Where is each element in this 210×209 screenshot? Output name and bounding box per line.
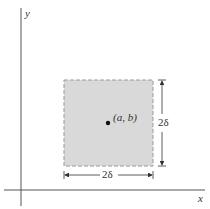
height-dimension-label: 2δ	[156, 117, 171, 128]
y-axis-label: y	[25, 8, 30, 19]
point-label: (a, b)	[113, 112, 137, 123]
x-axis-label: x	[198, 193, 203, 204]
center-point	[106, 121, 110, 125]
width-dimension-label: 2δ	[100, 169, 115, 180]
